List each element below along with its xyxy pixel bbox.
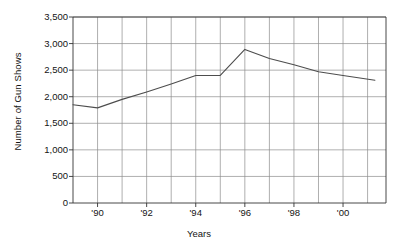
plot-frame (73, 17, 386, 203)
data-series-group (73, 49, 375, 107)
data-line-number-of-gun-shows (73, 49, 375, 107)
plot-canvas (0, 0, 398, 247)
axis-tick-marks (69, 17, 343, 207)
gridlines (73, 17, 386, 203)
gun-shows-line-chart: Number of Gun Shows Years 05001,0001,500… (0, 0, 398, 247)
